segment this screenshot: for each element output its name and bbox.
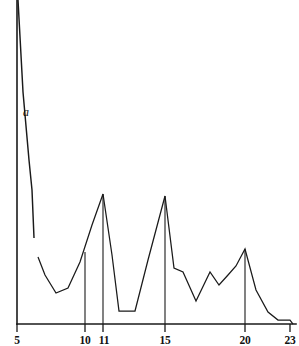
x-axis-ticks (17, 324, 290, 332)
tick-label-15: 15 (160, 334, 171, 346)
tick-label-10: 10 (80, 334, 91, 346)
tick-label-23: 23 (285, 334, 296, 346)
curve-a-label: a (23, 105, 29, 119)
tick-label-20: 20 (240, 334, 251, 346)
figure-container: 5 10 11 15 20 23 a (0, 0, 299, 346)
reference-lines (85, 194, 245, 324)
tick-label-5: 5 (14, 334, 20, 346)
tick-label-11: 11 (99, 334, 110, 346)
curve-a-continuum (18, 0, 34, 238)
x-tick-labels: 5 10 11 15 20 23 (14, 334, 296, 346)
line-chart: 5 10 11 15 20 23 a (0, 0, 299, 346)
